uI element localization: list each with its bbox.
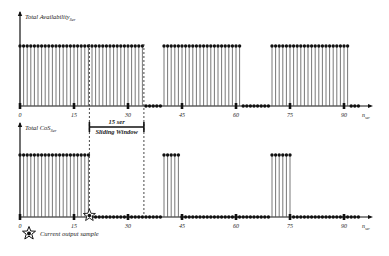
x-tick-label: 60 — [233, 223, 239, 229]
x-tick-label: 75 — [287, 112, 293, 118]
x-tick-label: 0 — [19, 112, 22, 118]
star-icon — [22, 226, 36, 240]
x-tick-label: 15 — [71, 112, 77, 118]
x-tick-label: 90 — [341, 112, 347, 118]
top-plot: Total AvailabilitySernser0153045607590 — [18, 11, 373, 120]
x-tick-label: 60 — [233, 112, 239, 118]
window-title-label: Sliding Window — [95, 128, 138, 135]
x-tick-label: 45 — [179, 112, 185, 118]
x-tick-label: 75 — [287, 223, 293, 229]
legend: Current output sample — [22, 226, 99, 240]
x-tick-label: 30 — [124, 223, 131, 229]
window-length-label: 15 ser — [109, 118, 126, 125]
y-axis-label: Total CoSSer — [25, 124, 57, 133]
y-axis-label: Total AvailabilitySer — [25, 13, 76, 22]
x-tick-label: 30 — [124, 112, 131, 118]
x-tick-label: 90 — [341, 223, 347, 229]
legend-label: Current output sample — [40, 230, 99, 237]
diagram-canvas: Total AvailabilitySernser0153045607590 T… — [0, 0, 389, 256]
x-axis-label: nser — [362, 223, 370, 231]
x-tick-label: 45 — [179, 223, 185, 229]
bottom-plot: Total CoSSernser0153045607590 — [18, 122, 373, 231]
x-axis-label: nser — [362, 112, 370, 120]
